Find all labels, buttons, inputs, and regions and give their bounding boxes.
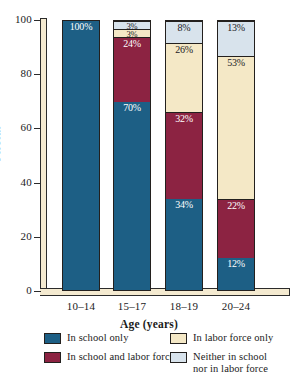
x-tick-label: 15–17 — [102, 300, 162, 312]
bar-15-17: 70%24%3%3% — [113, 20, 151, 291]
bar-segment-label: 13% — [218, 23, 254, 33]
bar-segment: 3% — [114, 21, 150, 29]
y-tick-label: 60 — [4, 122, 32, 133]
chart-legend: In school only In school and labor force… — [0, 330, 298, 379]
bar-segment: 22% — [218, 199, 254, 258]
legend-item-in-labor-force-only: In labor force only — [170, 332, 273, 344]
legend-swatch-in-school-only — [44, 333, 61, 344]
bar-segment-label: 12% — [218, 259, 254, 269]
bar-segment-label: 70% — [114, 103, 150, 113]
bar-segment: 24% — [114, 37, 150, 102]
legend-label-neither: Neither in school nor in labor force — [193, 351, 268, 374]
x-axis-title: Age (years) — [0, 318, 298, 330]
y-tick-mark — [34, 237, 41, 238]
y-tick-mark — [34, 183, 41, 184]
legend-label-in-school-and-labor-force: In school and labor force — [67, 351, 174, 363]
y-tick-mark — [34, 291, 41, 292]
y-tick-label: 80 — [4, 68, 32, 79]
y-axis — [40, 18, 47, 295]
bar-segment-label: 32% — [166, 114, 202, 124]
bar-segment-label: 53% — [218, 58, 254, 68]
bar-20-24: 12%22%53%13% — [217, 20, 255, 291]
legend-swatch-in-labor-force-only — [170, 333, 187, 344]
bar-segment-label: 8% — [166, 23, 202, 33]
bar-segment: 34% — [166, 199, 202, 290]
legend-label-in-labor-force-only: In labor force only — [193, 332, 273, 344]
legend-item-in-school-and-labor-force: In school and labor force — [44, 351, 174, 363]
bar-segment-label: 24% — [114, 39, 150, 49]
bar-segment-label: 100% — [63, 22, 99, 32]
bar-segment-label: 26% — [166, 45, 202, 55]
bar-segment: 8% — [166, 21, 202, 43]
y-tick-mark — [34, 20, 41, 21]
x-tick-label: 18–19 — [154, 300, 214, 312]
legend-swatch-in-school-and-labor-force — [44, 352, 61, 363]
y-tick-mark — [34, 128, 41, 129]
bar-segment: 53% — [218, 56, 254, 199]
y-axis-title: Percent — [0, 126, 2, 161]
bar-18-19: 34%32%26%8% — [165, 20, 203, 291]
bar-segment-label: 22% — [218, 201, 254, 211]
y-tick-mark — [34, 74, 41, 75]
y-tick-label: 40 — [4, 177, 32, 188]
legend-label-in-school-only: In school only — [67, 332, 128, 344]
bar-segment: 100% — [63, 21, 99, 290]
bar-segment-label: 3% — [114, 22, 150, 31]
bar-10-14: 100% — [62, 20, 100, 291]
legend-item-in-school-only: In school only — [44, 332, 128, 344]
legend-item-neither: Neither in school nor in labor force — [170, 351, 268, 374]
bar-segment: 32% — [166, 112, 202, 198]
y-tick-label: 20 — [4, 231, 32, 242]
bar-segment: 13% — [218, 21, 254, 56]
x-tick-label: 20–24 — [206, 300, 266, 312]
legend-swatch-neither — [170, 352, 187, 363]
bar-segment-label: 3% — [114, 30, 150, 39]
bar-segment-label: 34% — [166, 200, 202, 210]
stacked-bar-chart-figure: Percent 020406080100 100%70%24%3%3%34%32… — [0, 0, 298, 379]
bar-segment: 70% — [114, 102, 150, 290]
bar-segment: 12% — [218, 258, 254, 290]
bar-segment: 26% — [166, 43, 202, 113]
y-tick-label: 0 — [4, 285, 32, 296]
y-tick-label: 100 — [4, 14, 32, 25]
